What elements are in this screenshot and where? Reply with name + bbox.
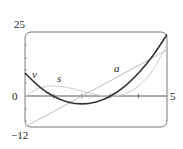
curve-a <box>25 50 167 127</box>
y-zero-label: 0 <box>12 90 18 102</box>
y-max-label: 25 <box>14 18 26 30</box>
curve-s-label: s <box>57 72 61 84</box>
curve-v <box>25 35 167 104</box>
curve-v-label: v <box>32 68 37 80</box>
x-max-label: 5 <box>170 90 176 102</box>
y-min-label: −12 <box>11 129 28 141</box>
chart: 25 0 −12 5 v s a <box>0 0 183 149</box>
curve-a-label: a <box>114 62 120 74</box>
